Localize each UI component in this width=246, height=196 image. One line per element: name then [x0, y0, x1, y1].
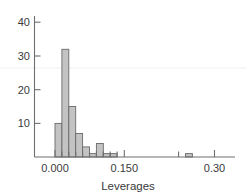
- bar: [69, 107, 76, 158]
- bar: [62, 49, 69, 157]
- y-axis: 40 30 20 10: [18, 16, 41, 157]
- x-tick-label-2: 0.30: [204, 162, 225, 174]
- y-tick-label-40: 40: [18, 16, 30, 28]
- bar: [55, 123, 62, 157]
- bars-group: [55, 49, 192, 157]
- histogram-chart: 40 30 20 10: [0, 0, 246, 196]
- y-tick-label-10: 10: [18, 117, 30, 129]
- y-tick-label-30: 30: [18, 50, 30, 62]
- x-tick-label-1: 0.150: [111, 162, 139, 174]
- chart-canvas: 40 30 20 10: [0, 0, 246, 196]
- bar: [76, 134, 83, 158]
- y-tick-label-20: 20: [18, 84, 30, 96]
- x-tick-label-0: 0.000: [41, 162, 69, 174]
- x-axis-title: Leverages: [101, 180, 155, 192]
- bar: [96, 144, 103, 158]
- bar: [83, 147, 90, 157]
